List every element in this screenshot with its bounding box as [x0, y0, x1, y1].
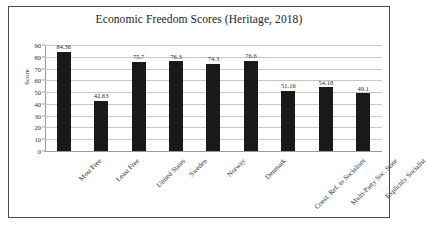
bar-group[interactable]: 74.3	[195, 45, 232, 151]
bar-value-label: 54.18	[319, 79, 334, 86]
bar-group[interactable]: 49.1	[345, 45, 382, 151]
y-axis-tick-label: 80	[35, 53, 42, 60]
bar-group[interactable]: 75.7	[120, 45, 157, 151]
y-axis-tick-label: 70	[35, 65, 42, 72]
x-axis-category-label: Sweden	[188, 157, 209, 178]
y-axis-tick-label: 0	[38, 148, 41, 155]
bar-group[interactable]: 76.6	[232, 45, 269, 151]
bar-group[interactable]: 84.36	[45, 45, 82, 151]
bar[interactable]	[356, 93, 370, 151]
x-axis-category-label: Denmark	[264, 157, 288, 181]
chart-title: Economic Freedom Scores (Heritage, 2018)	[9, 13, 389, 25]
chart-frame: Economic Freedom Scores (Heritage, 2018)…	[8, 6, 390, 218]
y-axis-title: Score	[23, 69, 31, 85]
bar-group[interactable]: 42.63	[82, 45, 119, 151]
bar[interactable]	[206, 64, 220, 152]
y-axis-tick-label: 20	[35, 124, 42, 131]
y-axis-tick-label: 50	[35, 89, 42, 96]
bar[interactable]	[57, 52, 71, 151]
bar-group[interactable]: 54.18	[307, 45, 344, 151]
x-axis-category-label: Least Free	[115, 157, 141, 183]
y-axis-tick-label: 10	[35, 136, 42, 143]
bar[interactable]	[281, 91, 295, 151]
x-axis-category-label: Const. Ref. to Socialism	[313, 157, 367, 211]
bar-value-label: 76.3	[170, 53, 181, 60]
bar[interactable]	[319, 87, 333, 151]
bar-value-label: 75.7	[133, 53, 144, 60]
x-axis-category-label: Norway	[225, 157, 247, 179]
bar-group[interactable]: 51.16	[270, 45, 307, 151]
y-axis-tick-label: 40	[35, 100, 42, 107]
bar[interactable]	[169, 61, 183, 151]
bar-value-label: 49.1	[358, 85, 369, 92]
bar-value-label: 76.6	[245, 52, 256, 59]
plot-area: 010203040506070809084.3642.6375.776.374.…	[45, 45, 382, 151]
x-axis-category-label: Most Free	[77, 157, 103, 183]
y-axis-tick-label: 90	[35, 42, 42, 49]
y-axis-tick-label: 60	[35, 77, 42, 84]
bar-value-label: 84.36	[56, 43, 71, 50]
bar[interactable]	[94, 101, 108, 151]
bar[interactable]	[132, 62, 146, 151]
bar-value-label: 42.63	[94, 92, 109, 99]
bar-group[interactable]: 76.3	[157, 45, 194, 151]
bar[interactable]	[244, 61, 258, 151]
gridline	[45, 151, 382, 152]
bar-value-label: 51.16	[281, 82, 296, 89]
bar-value-label: 74.3	[208, 55, 219, 62]
y-axis-tick-label: 30	[35, 112, 42, 119]
x-axis-category-label: United States	[155, 157, 187, 189]
